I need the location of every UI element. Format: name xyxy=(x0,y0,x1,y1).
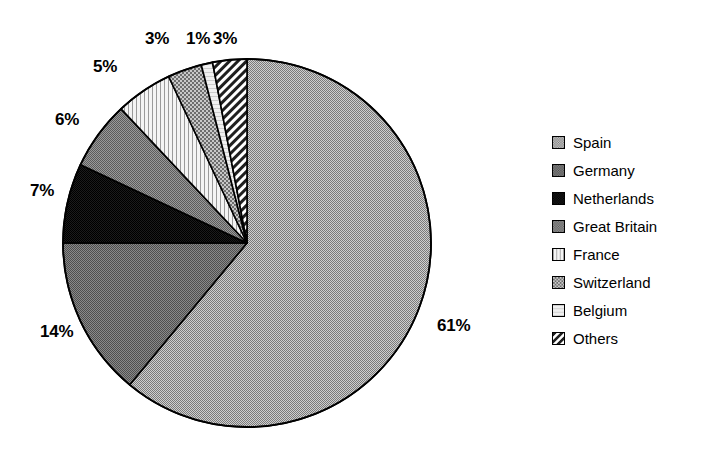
legend-swatch-icon xyxy=(552,332,565,345)
pie-value-label: 3% xyxy=(145,29,169,49)
chart-legend: SpainGermanyNetherlandsGreat BritainFran… xyxy=(552,128,700,352)
pie-value-label: 14% xyxy=(40,322,73,342)
pie-value-label: 5% xyxy=(93,57,117,77)
legend-swatch-icon xyxy=(552,304,565,317)
legend-swatch-icon xyxy=(552,192,565,205)
legend-item-france[interactable]: France xyxy=(552,240,700,268)
pie-value-label: 61% xyxy=(437,316,470,336)
pie-value-label: 7% xyxy=(30,181,54,201)
pie-value-label: 6% xyxy=(55,110,79,130)
legend-item-label: Switzerland xyxy=(573,275,651,290)
legend-item-label: Great Britain xyxy=(573,219,657,234)
legend-swatch-icon xyxy=(552,276,565,289)
legend-swatch-icon xyxy=(552,248,565,261)
legend-item-label: Others xyxy=(573,331,618,346)
pie-slices xyxy=(63,59,431,427)
legend-item-belgium[interactable]: Belgium xyxy=(552,296,700,324)
legend-item-netherlands[interactable]: Netherlands xyxy=(552,184,700,212)
legend-item-others[interactable]: Others xyxy=(552,324,700,352)
legend-item-label: Spain xyxy=(573,135,611,150)
legend-item-switzerland[interactable]: Switzerland xyxy=(552,268,700,296)
pie-svg xyxy=(0,0,500,461)
pie-value-label: 3% xyxy=(213,29,237,49)
pie-chart: 61%14%7%6%5%3%1%3% SpainGermanyNetherlan… xyxy=(0,0,703,461)
legend-item-spain[interactable]: Spain xyxy=(552,128,700,156)
pie-plot-area: 61%14%7%6%5%3%1%3% xyxy=(0,0,500,461)
legend-item-label: Belgium xyxy=(573,303,627,318)
legend-swatch-icon xyxy=(552,164,565,177)
legend-swatch-icon xyxy=(552,220,565,233)
legend-item-label: Netherlands xyxy=(573,191,654,206)
legend-item-great-britain[interactable]: Great Britain xyxy=(552,212,700,240)
legend-item-label: France xyxy=(573,247,620,262)
legend-swatch-icon xyxy=(552,136,565,149)
pie-value-label: 1% xyxy=(186,29,210,49)
legend-item-label: Germany xyxy=(573,163,635,178)
legend-item-germany[interactable]: Germany xyxy=(552,156,700,184)
